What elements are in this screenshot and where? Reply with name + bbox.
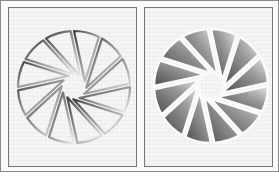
panel-solid-aperture xyxy=(144,7,273,167)
figure-frame xyxy=(0,0,279,172)
aperture-solid-icon xyxy=(145,8,272,166)
panel-outline-aperture xyxy=(8,7,137,167)
aperture-outline-icon xyxy=(9,8,136,166)
